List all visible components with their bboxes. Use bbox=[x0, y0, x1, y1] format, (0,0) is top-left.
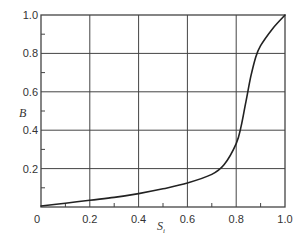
plot-frame bbox=[41, 15, 285, 207]
y-tick-label: 0.4 bbox=[23, 124, 38, 136]
y-tick-label: 0.8 bbox=[23, 47, 38, 59]
x-tick-label: 0 bbox=[34, 213, 40, 225]
x-tick-label: 0.4 bbox=[131, 213, 146, 225]
y-tick-label: 0.6 bbox=[23, 86, 38, 98]
data-curve bbox=[41, 15, 285, 206]
x-tick-label: 0.6 bbox=[180, 213, 195, 225]
x-tick-label: 0.2 bbox=[82, 213, 97, 225]
x-axis-label-subscript: i bbox=[163, 227, 165, 235]
x-axis-label: Si bbox=[157, 219, 165, 235]
y-tick-label: 1.0 bbox=[23, 9, 38, 21]
y-axis-label: B bbox=[19, 106, 27, 120]
chart: 00.20.40.60.81.0 0.20.40.60.81.0 B Si bbox=[0, 0, 306, 240]
x-tick-labels: 00.20.40.60.81.0 bbox=[34, 213, 293, 225]
x-tick-label: 0.8 bbox=[229, 213, 244, 225]
minor-ticks bbox=[41, 34, 261, 207]
y-tick-labels: 0.20.40.60.81.0 bbox=[23, 9, 38, 175]
x-tick-label: 1.0 bbox=[277, 213, 292, 225]
y-tick-label: 0.2 bbox=[23, 163, 38, 175]
grid-lines bbox=[41, 15, 285, 207]
